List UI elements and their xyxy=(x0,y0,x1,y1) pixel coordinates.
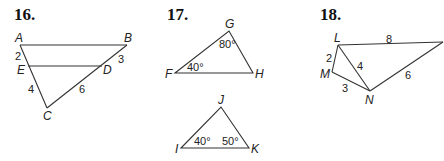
diagram-canvas: 16. A B E D C 2 4 3 6 17. G F H 80° 40° … xyxy=(0,0,444,161)
triangle-ijk xyxy=(181,107,249,148)
vertex-label-k: K xyxy=(251,142,260,156)
segment-bc xyxy=(47,45,127,108)
segment-label-mn: 3 xyxy=(342,82,348,94)
segment-label-top: 8 xyxy=(386,33,392,45)
vertex-label-g: G xyxy=(225,17,234,31)
angle-label-g: 80° xyxy=(219,38,236,50)
segment-label-ln: 4 xyxy=(357,60,363,72)
vertex-label-b: B xyxy=(124,31,132,45)
segment-label-right: 6 xyxy=(405,69,411,81)
vertex-label-a: A xyxy=(14,31,23,45)
figure-18: 18. L M N 8 2 4 3 6 xyxy=(320,5,443,107)
vertex-label-f: F xyxy=(165,67,173,81)
figure-number: 16. xyxy=(14,5,35,24)
vertex-label-e: E xyxy=(17,63,26,77)
angle-label-i: 40° xyxy=(194,135,211,147)
figure-number: 17. xyxy=(167,5,188,24)
vertex-label-h: H xyxy=(255,67,264,81)
segment-label-dc: 6 xyxy=(79,83,85,95)
angle-label-k: 50° xyxy=(222,135,239,147)
vertex-label-i: I xyxy=(175,142,179,156)
vertex-label-m: M xyxy=(320,67,330,81)
segment-label-bd: 3 xyxy=(118,53,124,65)
vertex-label-n: N xyxy=(365,93,374,107)
vertex-label-j: J xyxy=(217,93,225,107)
vertex-label-l: L xyxy=(334,31,341,45)
figure-number: 18. xyxy=(320,5,341,24)
segment-mn xyxy=(332,72,370,91)
vertex-label-d: D xyxy=(103,63,112,77)
angle-label-f: 40° xyxy=(187,61,204,73)
figure-16: 16. A B E D C 2 4 3 6 xyxy=(14,5,132,123)
segment-right xyxy=(370,42,443,91)
figure-17: 17. G F H 80° 40° J I K 40° 50° xyxy=(165,5,264,156)
segment-lm xyxy=(332,45,338,72)
segment-label-lm: 2 xyxy=(326,52,332,64)
vertex-label-c: C xyxy=(43,109,52,123)
segment-label-ec: 4 xyxy=(28,83,34,95)
segment-label-ae: 2 xyxy=(15,50,21,62)
